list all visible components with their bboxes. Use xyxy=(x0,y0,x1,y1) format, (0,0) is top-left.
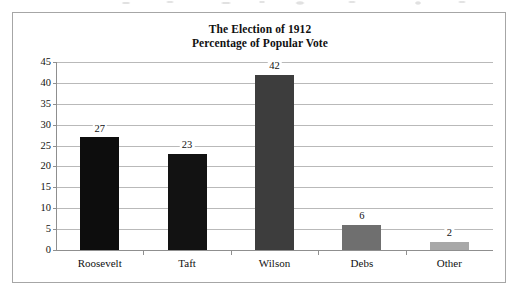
x-axis-line xyxy=(56,250,493,251)
y-axis-tick-label: 20 xyxy=(41,161,52,172)
chart-title: The Election of 1912 Percentage of Popul… xyxy=(13,23,507,50)
x-axis-category-label: Other xyxy=(437,257,462,269)
y-axis-tick-label: 5 xyxy=(46,224,51,235)
bar: 6 xyxy=(342,225,381,250)
x-axis-tick-mark xyxy=(231,251,232,255)
y-axis-tick-mark xyxy=(53,146,56,147)
bar: 27 xyxy=(80,137,119,250)
y-axis-tick-label: 40 xyxy=(41,78,52,89)
bar: 42 xyxy=(255,75,294,250)
plot-area: 051015202530354045 27234262 RooseveltTaf… xyxy=(56,62,493,250)
x-axis-category-label: Wilson xyxy=(259,257,290,269)
y-axis-tick-mark xyxy=(53,83,56,84)
x-axis-tick-mark xyxy=(143,251,144,255)
chart-title-line-1: The Election of 1912 xyxy=(13,23,507,37)
bar-value-label: 27 xyxy=(92,124,107,135)
x-axis-category-label: Debs xyxy=(351,257,374,269)
y-axis-tick-mark xyxy=(53,166,56,167)
chart-frame: The Election of 1912 Percentage of Popul… xyxy=(12,12,506,283)
y-axis-tick-label: 30 xyxy=(41,119,52,130)
y-axis-line xyxy=(56,62,57,251)
y-axis-tick-label: 15 xyxy=(41,182,52,193)
y-axis-tick-label: 10 xyxy=(41,203,52,214)
scan-artifact-band xyxy=(0,0,518,11)
bar: 2 xyxy=(430,242,469,250)
bar-value-label: 42 xyxy=(267,61,282,72)
bar-value-label: 23 xyxy=(180,140,195,151)
y-axis-tick-label: 25 xyxy=(41,140,52,151)
x-axis-tick-mark xyxy=(406,251,407,255)
x-axis-category-label: Taft xyxy=(178,257,196,269)
bar: 23 xyxy=(168,154,207,250)
y-axis-tick-mark xyxy=(53,125,56,126)
y-axis-tick-mark xyxy=(53,104,56,105)
chart-title-line-2: Percentage of Popular Vote xyxy=(13,37,507,51)
y-axis-tick-label: 0 xyxy=(46,245,51,256)
y-axis-tick-mark xyxy=(53,62,56,63)
x-axis-category-label: Roosevelt xyxy=(78,257,122,269)
y-axis-tick-mark xyxy=(53,187,56,188)
y-axis-tick-label: 45 xyxy=(41,57,52,68)
y-axis-tick-mark xyxy=(53,208,56,209)
x-axis-tick-mark xyxy=(318,251,319,255)
y-axis-tick-mark xyxy=(53,229,56,230)
y-axis-tick-label: 35 xyxy=(41,99,52,110)
bar-value-label: 2 xyxy=(445,228,454,239)
bar-value-label: 6 xyxy=(357,211,366,222)
